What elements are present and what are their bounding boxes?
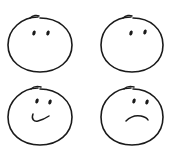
right-eye-icon — [145, 99, 150, 105]
right-eye-icon — [48, 99, 53, 105]
face-bottom-right — [101, 86, 163, 145]
frown-mouth — [126, 116, 148, 121]
face-outline — [101, 17, 163, 72]
smile-mouth — [32, 114, 49, 121]
left-eye-icon — [35, 98, 40, 104]
face-top-left — [8, 15, 72, 72]
face-outline — [8, 88, 72, 145]
face-top-right — [101, 15, 163, 72]
face-outline — [8, 17, 72, 72]
faces-illustration — [0, 0, 177, 150]
doodle-canvas — [0, 0, 177, 150]
right-eye-icon — [143, 29, 148, 35]
left-eye-icon — [132, 98, 137, 104]
left-eye-icon — [32, 30, 37, 36]
face-bottom-left — [8, 86, 72, 145]
right-eye-icon — [46, 30, 51, 36]
left-eye-icon — [129, 30, 134, 36]
